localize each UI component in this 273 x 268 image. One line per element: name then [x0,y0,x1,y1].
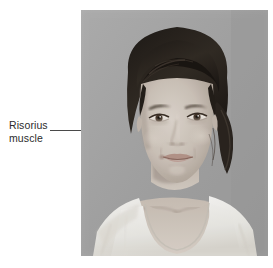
portrait-photograph-image [81,10,268,256]
callout-label-line-2: muscle [9,132,71,145]
callout-label: Risorius muscle [9,119,71,144]
portrait-photograph [81,10,268,256]
figure-root: Risorius muscle [0,0,273,268]
